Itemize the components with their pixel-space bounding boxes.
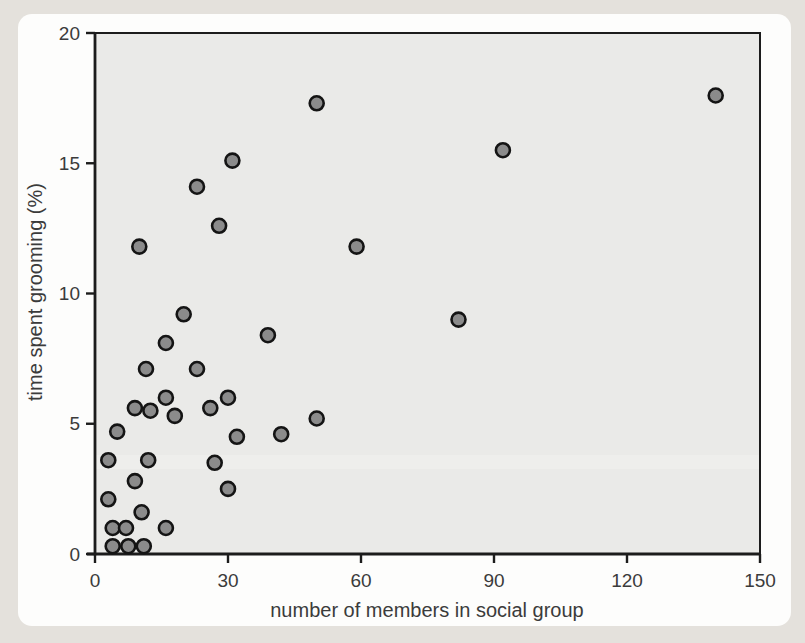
data-point <box>121 539 135 553</box>
scatter-plot: 030609012015005101520 number of members … <box>0 0 805 643</box>
x-tick-label: 30 <box>217 570 238 591</box>
data-point <box>137 539 151 553</box>
data-point <box>128 401 142 415</box>
y-tick-label: 20 <box>59 23 80 44</box>
scan-band <box>96 455 759 469</box>
data-point <box>101 492 115 506</box>
x-tick-label: 90 <box>483 570 504 591</box>
data-point <box>106 521 120 535</box>
data-point <box>159 336 173 350</box>
data-point <box>168 409 182 423</box>
x-tick-label: 0 <box>90 570 101 591</box>
data-point <box>128 474 142 488</box>
data-point <box>141 453 155 467</box>
data-point <box>177 307 191 321</box>
data-point <box>208 456 222 470</box>
x-tick-label: 60 <box>350 570 371 591</box>
data-point <box>452 313 466 327</box>
y-tick-label: 0 <box>69 544 80 565</box>
y-tick-label: 5 <box>69 413 80 434</box>
data-point <box>203 401 217 415</box>
data-point <box>110 425 124 439</box>
data-point <box>709 89 723 103</box>
data-point <box>221 391 235 405</box>
data-point <box>261 328 275 342</box>
plot-background <box>95 33 760 554</box>
data-point <box>190 180 204 194</box>
data-point <box>310 412 324 426</box>
data-point <box>139 362 153 376</box>
data-point <box>310 96 324 110</box>
y-axis-title: time spent grooming (%) <box>24 183 46 401</box>
y-tick-label: 15 <box>59 153 80 174</box>
data-point <box>143 404 157 418</box>
data-point <box>106 539 120 553</box>
y-tick-label: 10 <box>59 283 80 304</box>
data-point <box>159 391 173 405</box>
x-axis-title: number of members in social group <box>270 599 583 621</box>
data-point <box>190 362 204 376</box>
data-point <box>159 521 173 535</box>
data-point <box>212 219 226 233</box>
data-point <box>221 482 235 496</box>
data-point <box>225 154 239 168</box>
data-point <box>135 505 149 519</box>
data-point <box>274 427 288 441</box>
x-tick-label: 150 <box>744 570 776 591</box>
x-tick-label: 120 <box>611 570 643 591</box>
data-point <box>350 240 364 254</box>
data-point <box>119 521 133 535</box>
data-point <box>496 143 510 157</box>
page-background: { "chart_data": { "type": "scatter", "ti… <box>0 0 805 643</box>
plot-area <box>87 33 760 555</box>
data-point <box>230 430 244 444</box>
data-point <box>132 240 146 254</box>
data-point <box>101 453 115 467</box>
